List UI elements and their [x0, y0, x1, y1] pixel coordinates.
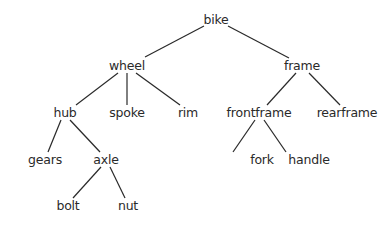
node-rim: rim: [178, 107, 198, 120]
edge-bike-wheel: [145, 26, 204, 57]
node-handle: handle: [288, 154, 329, 167]
node-bolt: bolt: [56, 200, 79, 213]
node-hub: hub: [53, 107, 76, 120]
edge-wheel-hub: [76, 73, 118, 105]
bike-parts-tree: bikewheelframehubspokerimfrontframerearf…: [0, 0, 387, 225]
node-gears: gears: [28, 154, 62, 167]
edge-frontframe-fork: [233, 120, 255, 152]
node-spoke: spoke: [109, 107, 145, 120]
edge-bike-frame: [228, 26, 289, 58]
edge-frontframe-handle: [264, 120, 286, 152]
edge-frame-frontframe: [267, 73, 296, 105]
node-nut: nut: [118, 200, 138, 213]
node-axle: axle: [93, 154, 118, 167]
edge-hub-gears: [48, 120, 61, 152]
edge-axle-nut: [110, 167, 125, 198]
node-wheel: wheel: [109, 60, 145, 73]
node-rearframe: rearframe: [317, 107, 378, 120]
node-bike: bike: [203, 14, 228, 27]
edge-frame-rearframe: [309, 73, 340, 105]
edge-wheel-rim: [136, 73, 180, 105]
edge-axle-bolt: [73, 167, 101, 198]
node-fork: fork: [250, 154, 274, 167]
node-frame: frame: [284, 60, 320, 73]
node-frontframe: frontframe: [227, 107, 292, 120]
edge-hub-axle: [70, 120, 100, 152]
